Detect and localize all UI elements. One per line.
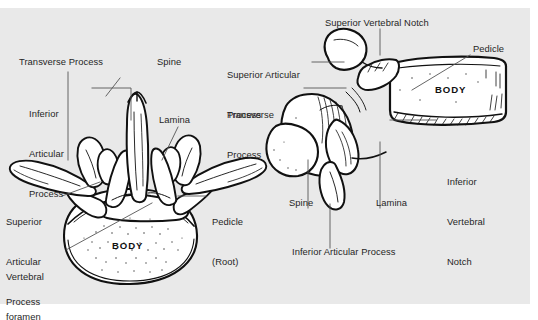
label-lamina-lateral: Lamina bbox=[376, 196, 407, 209]
body-label-superior: BODY bbox=[112, 240, 143, 251]
label-line-1: Superior Articular bbox=[227, 68, 300, 81]
label-line-2: Process bbox=[227, 148, 274, 161]
label-vertebral-foramen: Vertebral foramen bbox=[6, 244, 44, 320]
label-line-1: Inferior bbox=[447, 175, 485, 188]
label-spine-superior: Spine bbox=[157, 55, 181, 68]
label-transverse-process-superior: Transverse Process bbox=[19, 55, 103, 68]
label-line-1: Inferior bbox=[29, 107, 64, 120]
label-line-2: foramen bbox=[6, 310, 44, 320]
label-line-2: Vertebral bbox=[447, 215, 485, 228]
label-line-2: Articular bbox=[29, 147, 64, 160]
label-pedicle-superior: Pedicle (Root) bbox=[212, 189, 243, 295]
label-line-1: Superior bbox=[6, 215, 42, 228]
label-line-2: (Root) bbox=[212, 255, 243, 268]
body-label-lateral: BODY bbox=[435, 84, 466, 95]
label-pedicle-lateral: Pedicle bbox=[473, 42, 504, 55]
vertebra-anatomy-figure: Transverse Process Inferior Articular Pr… bbox=[0, 0, 538, 320]
label-transverse-process-lateral: Transverse Process bbox=[227, 82, 274, 188]
label-line-1: Pedicle bbox=[212, 215, 243, 228]
label-line-1: Transverse bbox=[227, 108, 274, 121]
label-line-3: Notch bbox=[447, 255, 485, 268]
label-line-1: Vertebral bbox=[6, 270, 44, 283]
label-spine-lateral: Spine bbox=[289, 196, 313, 209]
label-inferior-articular-process-lateral: Inferior Articular Process bbox=[292, 245, 395, 258]
label-inferior-vertebral-notch: Inferior Vertebral Notch bbox=[447, 149, 485, 294]
label-lamina-superior: Lamina bbox=[159, 113, 190, 126]
label-superior-vertebral-notch: Superior Vertebral Notch bbox=[325, 16, 429, 29]
